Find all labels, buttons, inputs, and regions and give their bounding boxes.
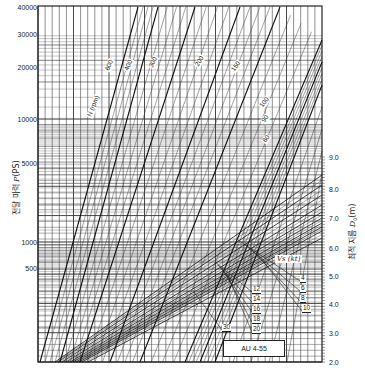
vs-label-6: 6 [300, 285, 306, 293]
grid [38, 6, 325, 362]
left-tick-30000: 30000 [18, 31, 37, 38]
vs-label-18: 18 [252, 316, 261, 324]
vs-label-20: 20 [252, 326, 261, 334]
right-tick-6.0: 6.0 [329, 245, 339, 252]
left-tick-10000: 10000 [18, 116, 37, 123]
left-tick-5000: 5000 [21, 160, 37, 167]
vs-label-8: 8 [300, 295, 306, 303]
left-axis-label: 전달 마력 P(PS) [10, 160, 21, 215]
vs-label-12: 12 [252, 286, 261, 294]
left-tick-20000: 20000 [18, 64, 37, 71]
right-tick-3.0: 3.0 [329, 330, 339, 337]
rpm-line-80 [215, 85, 322, 362]
right-tick-5.0: 5.0 [329, 273, 339, 280]
propeller-design-chart [0, 0, 365, 373]
vs-label-10: 10 [302, 305, 311, 313]
right-tick-7.0: 7.0 [329, 215, 339, 222]
left-tick-1000: 1000 [21, 239, 37, 246]
right-tick-4.0: 4.0 [329, 301, 339, 308]
rpm-line-100 [185, 40, 322, 362]
right-axis-label: 최적 지름 D0(m) [346, 204, 359, 261]
plot-id: AU 4-55 [241, 345, 267, 352]
vs-line-16 [76, 223, 322, 362]
right-tick-2.0: 2.0 [329, 359, 339, 366]
vs-label-14: 14 [252, 296, 261, 304]
plot-id-box: AU 4-55 [223, 340, 285, 357]
vs-legend-title: Vs (kt) [275, 255, 302, 263]
vs-label-16: 16 [252, 306, 261, 314]
right-tick-8.0: 8.0 [329, 186, 339, 193]
left-tick-40000: 40000 [18, 4, 37, 11]
vs-line-6 [58, 185, 322, 362]
right-tick-9.0: 9.0 [329, 154, 339, 161]
vs-label-4: 4 [300, 275, 306, 283]
left-tick-500: 500 [25, 265, 37, 272]
vs-label-30: 30 [222, 324, 231, 332]
